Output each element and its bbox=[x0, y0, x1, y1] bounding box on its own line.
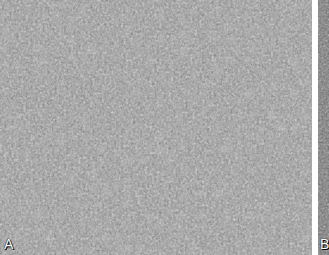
panel-label-b: B bbox=[320, 237, 329, 251]
micrograph-panel-a: A bbox=[0, 0, 312, 255]
micrograph-panel-b: B bbox=[318, 0, 329, 255]
histology-texture-a bbox=[0, 0, 312, 255]
histology-texture-b bbox=[318, 0, 329, 255]
panel-label-a: A bbox=[4, 237, 13, 251]
